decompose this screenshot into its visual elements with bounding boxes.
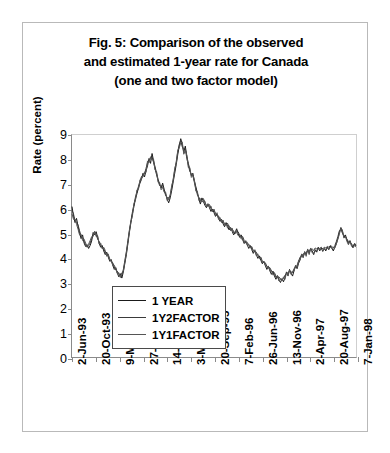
legend-label: 1Y2FACTOR <box>152 312 220 324</box>
x-axis-tick-mark <box>263 357 264 362</box>
figure-container: Fig. 5: Comparison of the observed and e… <box>22 22 368 432</box>
legend-label: 1Y1FACTOR <box>152 329 220 341</box>
figure-title-line-1: Fig. 5: Comparison of the observed <box>23 33 369 52</box>
x-axis-tick-mark <box>358 357 359 362</box>
legend-swatch-1y2factor <box>118 317 146 318</box>
x-axis-tick-mark <box>310 357 311 362</box>
figure-title-line-3: (one and two factor model) <box>23 71 369 90</box>
legend-item: 1Y1FACTOR <box>118 326 219 343</box>
y-axis-label: Rate (percent) <box>31 75 43 195</box>
chart-legend: 1 YEAR 1Y2FACTOR 1Y1FACTOR <box>112 286 226 349</box>
legend-swatch-1-year <box>118 300 146 301</box>
legend-item: 1Y2FACTOR <box>118 309 219 326</box>
plot-area: Rate (percent) 0123456789 2-Jun-9320-Oct… <box>71 134 357 358</box>
x-axis-tick-mark <box>215 357 216 362</box>
x-axis-tick-mark <box>167 357 168 362</box>
x-axis-tick-mark <box>191 357 192 362</box>
x-axis-tick-label: 7-Jan-98 <box>362 318 374 365</box>
figure-title-line-2: and estimated 1-year rate for Canada <box>23 52 369 71</box>
x-axis-tick-mark <box>287 357 288 362</box>
x-axis-tick-mark <box>120 357 121 362</box>
legend-item: 1 YEAR <box>118 292 219 309</box>
legend-label: 1 YEAR <box>152 295 193 307</box>
x-axis-tick-mark <box>239 357 240 362</box>
x-axis-tick-mark <box>144 357 145 362</box>
x-axis-tick-mark <box>96 357 97 362</box>
figure-title: Fig. 5: Comparison of the observed and e… <box>23 33 369 90</box>
x-axis-tick-mark <box>334 357 335 362</box>
legend-swatch-1y1factor <box>118 334 146 335</box>
x-axis-tick-mark <box>72 357 73 362</box>
